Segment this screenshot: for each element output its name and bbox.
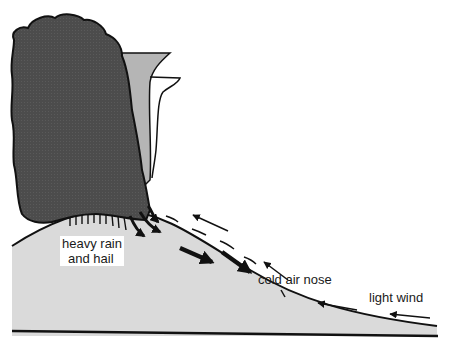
anvil-outline <box>150 77 180 178</box>
rain-label-line-2: and hail <box>62 251 122 266</box>
rain-label-line-1: heavy rain <box>62 236 122 251</box>
light-wind-label: light wind <box>369 290 423 305</box>
cumulonimbus-cloud <box>11 14 150 222</box>
cold-air-nose-label: cold air nose <box>258 272 332 287</box>
heavy-rain-label: heavy rain and hail <box>60 236 124 266</box>
